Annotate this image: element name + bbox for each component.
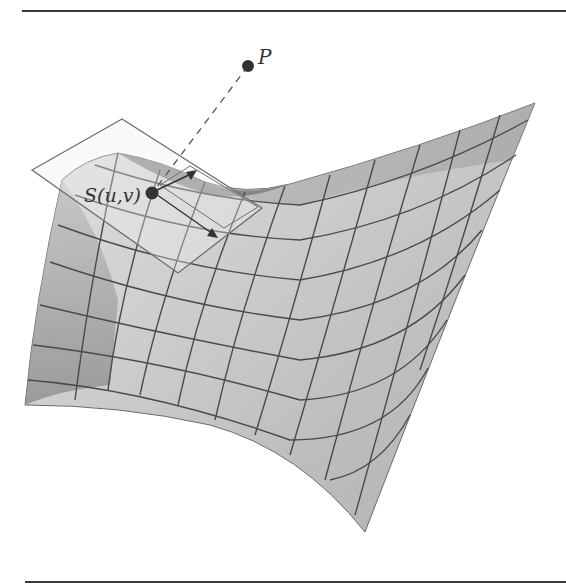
- surface-point-marker: [146, 187, 159, 200]
- surface-diagram: P S(u,v): [0, 0, 566, 585]
- surface-point-label: S(u,v): [84, 184, 141, 206]
- point-p-label: P: [257, 45, 272, 69]
- point-p-marker: [242, 60, 254, 72]
